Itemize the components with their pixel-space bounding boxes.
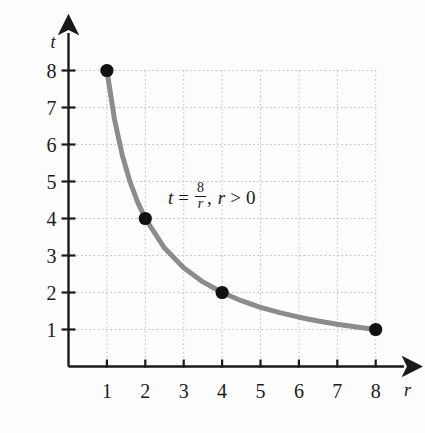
equation-equals: =: [178, 188, 189, 207]
y-tick-label-1: 1: [33, 320, 57, 340]
equation-domain-operator: >: [230, 188, 241, 207]
equation-annotation: t = 8 r , r > 0: [168, 182, 255, 212]
x-tick-label-3: 3: [172, 381, 196, 401]
x-tick-label-2: 2: [133, 381, 157, 401]
data-point: [216, 286, 229, 299]
data-point: [369, 323, 382, 336]
plot-canvas: [0, 0, 425, 433]
equation-denominator: r: [196, 197, 205, 212]
x-tick-label-5: 5: [249, 381, 273, 401]
equation-fraction: 8 r: [195, 181, 206, 211]
data-point: [100, 64, 113, 77]
equation-comma: ,: [207, 188, 212, 207]
x-axis-label: r: [404, 381, 411, 399]
y-tick-label-6: 6: [33, 135, 57, 155]
x-tick-label-1: 1: [95, 381, 119, 401]
y-tick-label-3: 3: [33, 246, 57, 266]
y-axis-label: t: [51, 33, 56, 51]
y-tick-label-7: 7: [33, 98, 57, 118]
y-tick-label-2: 2: [33, 283, 57, 303]
equation-domain-value: 0: [246, 188, 256, 207]
x-tick-label-6: 6: [287, 381, 311, 401]
inverse-variation-graph-figure: 12345678 12345678 t r t = 8 r , r > 0: [0, 0, 425, 433]
x-tick-label-8: 8: [364, 381, 388, 401]
equation-numerator: 8: [195, 181, 206, 196]
equation-lhs: t: [168, 188, 173, 207]
x-tick-label-7: 7: [325, 381, 349, 401]
x-tick-label-4: 4: [210, 381, 234, 401]
y-tick-label-4: 4: [33, 209, 57, 229]
equation-domain-variable: r: [218, 188, 225, 207]
y-tick-label-5: 5: [33, 172, 57, 192]
data-point: [139, 212, 152, 225]
y-tick-label-8: 8: [33, 61, 57, 81]
